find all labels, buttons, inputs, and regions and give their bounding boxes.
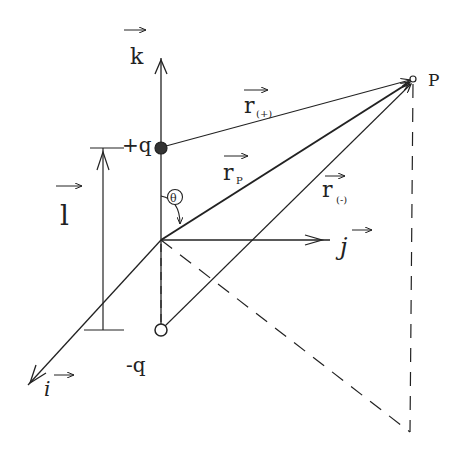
j-axis-label: j bbox=[335, 233, 348, 261]
p-drop-dashed-line bbox=[410, 84, 413, 432]
k-axis-label: k bbox=[130, 44, 144, 69]
r-plus-main: r bbox=[244, 93, 255, 118]
point-p-marker bbox=[410, 76, 416, 82]
r-plus-sub: (+) bbox=[256, 108, 272, 119]
r-plus-vector bbox=[166, 80, 410, 146]
j-axis bbox=[161, 235, 330, 245]
l-label: l bbox=[60, 199, 69, 232]
dipole-diagram: P +q -q l θ k j i r (+) r P r (-) bbox=[0, 0, 463, 462]
r-plus-label: r (+) bbox=[244, 90, 272, 119]
r-p-sub: P bbox=[236, 175, 243, 186]
r-minus-main: r bbox=[322, 177, 333, 202]
r-minus-vector bbox=[165, 84, 411, 326]
negative-charge-icon bbox=[155, 324, 167, 336]
r-p-vector bbox=[161, 82, 410, 240]
negative-charge-label: -q bbox=[126, 353, 146, 377]
positive-charge-icon bbox=[155, 142, 167, 154]
point-p-label: P bbox=[428, 70, 439, 90]
r-minus-label: r (-) bbox=[322, 176, 347, 205]
theta-label: θ bbox=[170, 192, 177, 205]
r-minus-sub: (-) bbox=[336, 194, 347, 205]
projection-dashed-line bbox=[161, 240, 410, 432]
positive-charge-label: +q bbox=[122, 133, 152, 157]
r-p-label: r P bbox=[223, 156, 248, 186]
i-axis-label: i bbox=[44, 377, 50, 401]
r-p-main: r bbox=[223, 160, 234, 185]
